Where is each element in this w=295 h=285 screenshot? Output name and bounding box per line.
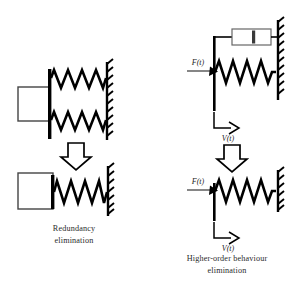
- spring: [215, 180, 276, 202]
- velocity-label: V(t): [222, 244, 235, 253]
- caption-left-line2: elimination: [55, 236, 94, 245]
- panel-bottom-right: F(t) V(t): [187, 167, 284, 253]
- caption-right-line2: elimination: [208, 266, 247, 275]
- force-label: F(t): [191, 177, 205, 186]
- figure-canvas: F(t) V(t) F(t): [0, 0, 295, 285]
- spring-anchor-bar: [48, 69, 51, 139]
- mass-block: [18, 87, 50, 121]
- panel-top-left: [18, 59, 113, 140]
- spring: [215, 61, 276, 83]
- left-block-arrow: [61, 143, 91, 170]
- velocity-arrow-elbow: [214, 112, 231, 128]
- force-label: F(t): [191, 58, 205, 67]
- damper-body: [232, 29, 271, 45]
- spring-lower: [51, 112, 106, 130]
- panel-top-right: F(t) V(t): [187, 17, 284, 143]
- spring-upper: [51, 70, 106, 88]
- mass-block: [18, 173, 53, 209]
- damper-piston: [252, 31, 255, 44]
- caption-left-line1: Redundancy: [53, 224, 96, 233]
- spring-anchor-bar: [51, 175, 54, 209]
- spring: [54, 181, 107, 203]
- panel-bottom-left: [18, 163, 114, 216]
- velocity-arrow-elbow: [214, 222, 231, 238]
- velocity-label: V(t): [222, 134, 235, 143]
- caption-right-line1: Higher-order behaviour: [187, 254, 268, 263]
- diagram-svg: F(t) V(t) F(t): [0, 0, 295, 285]
- right-block-arrow: [217, 145, 247, 172]
